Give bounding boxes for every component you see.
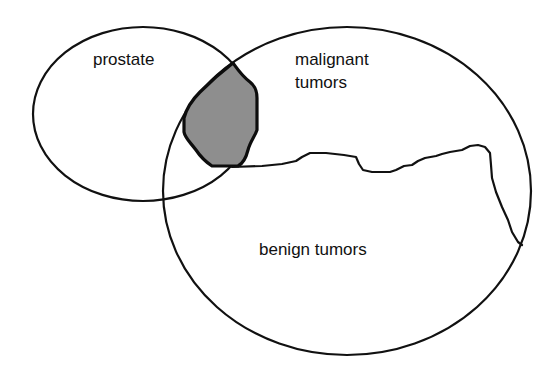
malignant-tumors-label-line2: tumors <box>295 73 347 92</box>
prostate-label: prostate <box>93 50 154 69</box>
malignant-benign-divider-line <box>232 145 522 245</box>
benign-tumors-label: benign tumors <box>259 240 367 259</box>
malignant-tumors-label-line1: malignant <box>295 50 369 69</box>
prostate-malignant-intersection-region <box>184 63 257 166</box>
venn-diagram: prostate malignant tumors benign tumors <box>0 0 556 385</box>
venn-svg: prostate malignant tumors benign tumors <box>0 0 556 385</box>
